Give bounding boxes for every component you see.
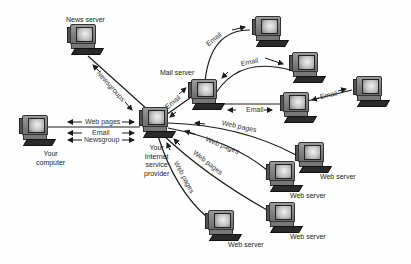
mail-server-label: Mail server bbox=[160, 69, 194, 78]
web-server-computer-2 bbox=[265, 161, 299, 193]
isp-label: Your Internet service provider bbox=[144, 144, 169, 178]
your-computer-label: Your computer bbox=[36, 150, 65, 167]
network-diagram: News server Mail server Your Internet se… bbox=[0, 0, 411, 264]
edge-label-mail-c3-email: Email bbox=[246, 106, 264, 113]
web-server-label-2: Web server bbox=[290, 192, 326, 201]
web-server-computer-1 bbox=[294, 142, 328, 174]
web-server-computer-4 bbox=[204, 210, 238, 242]
mail-client-computer-3 bbox=[279, 92, 313, 124]
web-server-label-1: Web server bbox=[320, 173, 356, 182]
your-computer bbox=[18, 115, 52, 147]
mail-client-computer-1 bbox=[251, 16, 285, 48]
mail-server-computer bbox=[187, 79, 221, 111]
web-server-label-4: Web server bbox=[228, 241, 264, 250]
edge-label-web-pages: Web pages bbox=[85, 118, 120, 125]
web-server-label-3: Web server bbox=[290, 233, 326, 242]
news-server-label: News server bbox=[66, 16, 105, 25]
mail-client-computer-2 bbox=[288, 52, 322, 84]
isp-computer bbox=[138, 107, 172, 139]
edge-label-newsgroup: Newsgroup bbox=[84, 136, 119, 143]
news-server-computer bbox=[66, 24, 100, 56]
web-server-computer-3 bbox=[265, 202, 299, 234]
edge-label-email: Email bbox=[92, 129, 110, 136]
mail-client-computer-4 bbox=[352, 76, 386, 108]
